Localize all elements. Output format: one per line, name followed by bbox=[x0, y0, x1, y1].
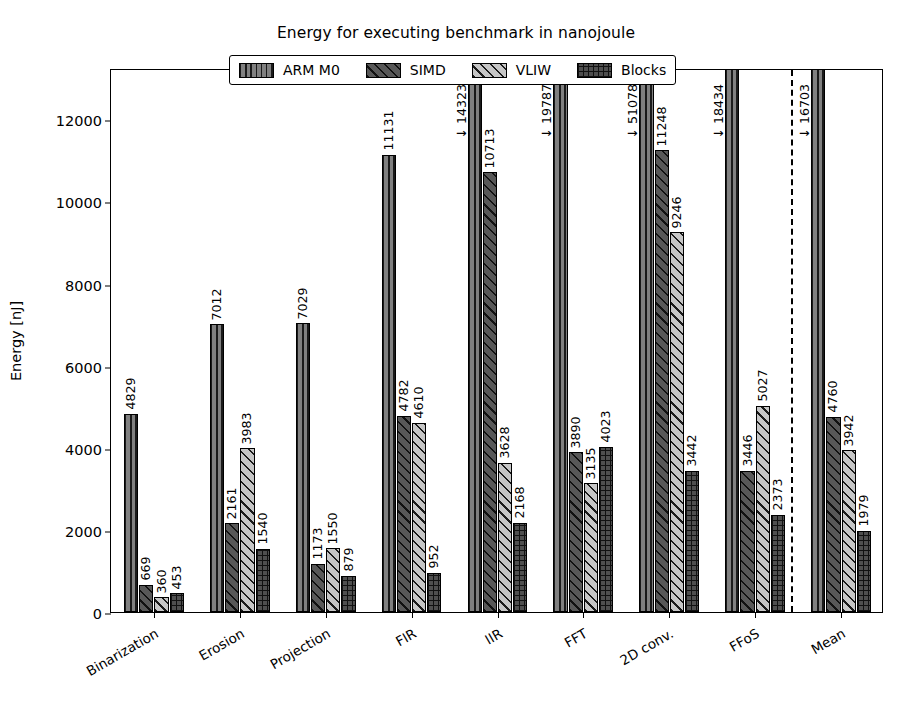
bar-arm-m0[interactable] bbox=[811, 70, 825, 612]
legend-label: SIMD bbox=[410, 62, 446, 78]
x-tick-mark bbox=[412, 612, 413, 618]
bar-vliw[interactable] bbox=[240, 448, 254, 612]
x-tick-label: FFoS bbox=[683, 625, 762, 680]
bar-arm-m0[interactable] bbox=[382, 155, 396, 612]
legend-label: Blocks bbox=[621, 62, 666, 78]
x-tick-mark bbox=[755, 612, 756, 618]
x-tick-label: Binarization bbox=[82, 625, 161, 680]
bar-value-label: 4829 bbox=[125, 378, 138, 410]
x-tick-label: Mean bbox=[769, 625, 848, 680]
bar-simd[interactable] bbox=[225, 523, 239, 612]
x-tick-label: Projection bbox=[254, 625, 333, 680]
bar-blocks[interactable] bbox=[771, 515, 785, 612]
bar-simd[interactable] bbox=[311, 564, 325, 612]
bar-value-label: 4760 bbox=[827, 381, 840, 413]
bar-blocks[interactable] bbox=[513, 523, 527, 612]
bar-vliw[interactable] bbox=[326, 548, 340, 612]
bar-blocks[interactable] bbox=[256, 549, 270, 612]
legend-entry-arm-m0[interactable]: ARM M0 bbox=[239, 62, 340, 78]
bar-value-label: 3983 bbox=[241, 412, 254, 444]
bar-arm-m0[interactable] bbox=[639, 70, 653, 612]
bar-vliw[interactable] bbox=[756, 406, 770, 612]
bar-blocks[interactable] bbox=[427, 573, 441, 612]
bar-simd[interactable] bbox=[740, 471, 754, 612]
bar-arm-m0[interactable] bbox=[553, 70, 567, 612]
bar-blocks[interactable] bbox=[170, 593, 184, 612]
bar-value-label: 9246 bbox=[671, 196, 684, 228]
x-tick-label: FFT bbox=[511, 625, 590, 680]
bar-blocks[interactable] bbox=[685, 471, 699, 612]
x-tick-mark bbox=[326, 612, 327, 618]
y-tick-mark bbox=[105, 449, 111, 450]
bar-arm-m0[interactable] bbox=[296, 323, 310, 612]
bar-vliw[interactable] bbox=[154, 597, 168, 612]
x-tick-label: IIR bbox=[425, 625, 504, 680]
legend-label: VLIW bbox=[516, 62, 551, 78]
bar-value-label: 1979 bbox=[858, 495, 871, 527]
y-tick-mark bbox=[105, 531, 111, 532]
legend-entry-simd[interactable]: SIMD bbox=[366, 62, 446, 78]
legend-label: ARM M0 bbox=[283, 62, 340, 78]
bar-value-label: 2168 bbox=[514, 487, 527, 519]
bar-vliw[interactable] bbox=[842, 450, 856, 612]
bar-value-label: 5027 bbox=[756, 370, 769, 402]
overflow-value-label: ↓ 51078 bbox=[627, 84, 640, 139]
y-tick-label: 12000 bbox=[56, 113, 111, 129]
bar-arm-m0[interactable] bbox=[725, 70, 739, 612]
x-tick-mark bbox=[240, 612, 241, 618]
bar-value-label: 360 bbox=[155, 569, 168, 593]
bar-blocks[interactable] bbox=[341, 576, 355, 612]
bar-value-label: 2161 bbox=[226, 487, 239, 519]
bar-vliw[interactable] bbox=[498, 463, 512, 612]
bar-value-label: 10713 bbox=[484, 128, 497, 168]
y-tick-mark bbox=[105, 203, 111, 204]
y-tick-mark bbox=[105, 121, 111, 122]
group-separator bbox=[791, 70, 793, 612]
bar-vliw[interactable] bbox=[584, 483, 598, 612]
legend-swatch-arm-icon bbox=[239, 63, 274, 78]
y-tick-label: 10000 bbox=[56, 195, 111, 211]
bar-value-label: 11248 bbox=[655, 106, 668, 146]
legend-entry-vliw[interactable]: VLIW bbox=[472, 62, 551, 78]
overflow-value-label: ↓ 14323 bbox=[456, 84, 469, 139]
bar-value-label: 3942 bbox=[842, 414, 855, 446]
x-tick-label: FIR bbox=[340, 625, 419, 680]
y-tick-mark bbox=[105, 614, 111, 615]
bar-value-label: 1540 bbox=[256, 513, 269, 545]
bar-vliw[interactable] bbox=[412, 423, 426, 612]
plot-inner: 4829669360453701221613983154070291173155… bbox=[111, 70, 882, 612]
bar-value-label: 7029 bbox=[297, 287, 310, 319]
x-tick-mark bbox=[841, 612, 842, 618]
bar-value-label: 3442 bbox=[686, 435, 699, 467]
x-tick-label: 2D conv. bbox=[597, 625, 676, 680]
bar-simd[interactable] bbox=[569, 452, 583, 612]
bar-value-label: 3446 bbox=[741, 434, 754, 466]
chart-root: Energy for executing benchmark in nanojo… bbox=[0, 0, 912, 708]
bar-arm-m0[interactable] bbox=[468, 70, 482, 612]
x-tick-mark bbox=[154, 612, 155, 618]
bar-simd[interactable] bbox=[826, 417, 840, 612]
bar-simd[interactable] bbox=[483, 172, 497, 612]
bar-value-label: 3628 bbox=[499, 427, 512, 459]
bar-simd[interactable] bbox=[655, 150, 669, 612]
legend-swatch-blocks-icon bbox=[577, 63, 612, 78]
bar-vliw[interactable] bbox=[670, 232, 684, 612]
y-axis-label: Energy [nJ] bbox=[8, 301, 24, 381]
legend-swatch-vliw-icon bbox=[472, 63, 507, 78]
bar-value-label: 11131 bbox=[383, 111, 396, 151]
x-tick-mark bbox=[498, 612, 499, 618]
bar-blocks[interactable] bbox=[857, 531, 871, 612]
overflow-value-label: ↓ 18434 bbox=[713, 84, 726, 139]
overflow-value-label: ↓ 16703 bbox=[799, 84, 812, 139]
bar-value-label: 1550 bbox=[327, 512, 340, 544]
bar-simd[interactable] bbox=[139, 585, 153, 612]
bar-value-label: 952 bbox=[428, 545, 441, 569]
legend-entry-blocks[interactable]: Blocks bbox=[577, 62, 666, 78]
bar-value-label: 4782 bbox=[398, 380, 411, 412]
plot-area: 4829669360453701221613983154070291173155… bbox=[110, 69, 883, 613]
bar-arm-m0[interactable] bbox=[210, 324, 224, 612]
legend-swatch-simd-icon bbox=[366, 63, 401, 78]
bar-arm-m0[interactable] bbox=[124, 414, 138, 612]
bar-blocks[interactable] bbox=[599, 447, 613, 612]
bar-simd[interactable] bbox=[397, 416, 411, 612]
